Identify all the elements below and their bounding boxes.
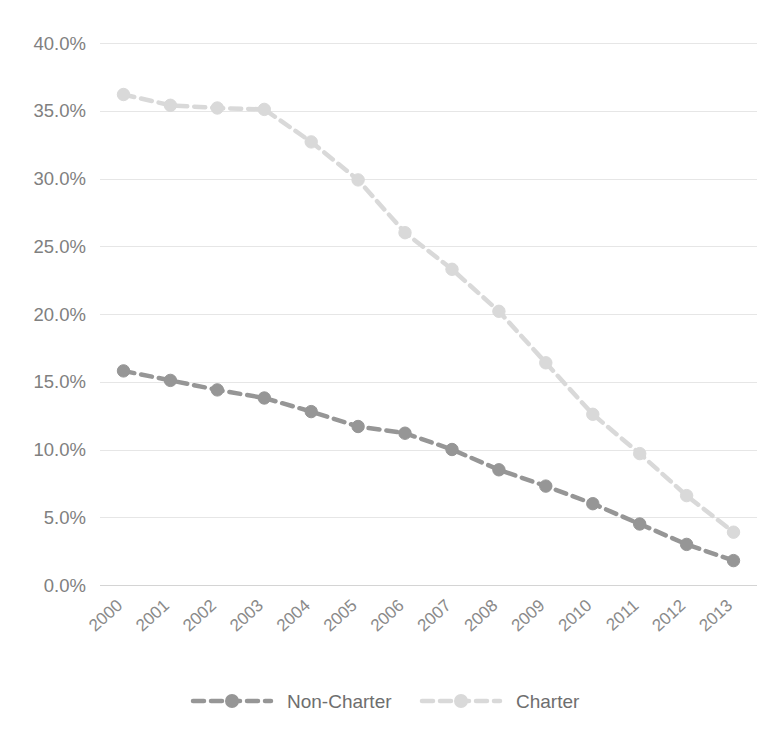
data-point-marker	[399, 227, 411, 239]
x-tick-label: 2001	[132, 596, 173, 635]
x-tick-label: 2000	[85, 596, 126, 635]
data-point-marker	[727, 526, 739, 538]
data-point-marker	[493, 464, 505, 476]
data-point-marker	[305, 136, 317, 148]
data-point-marker	[727, 554, 739, 566]
data-point-marker	[540, 357, 552, 369]
x-tick-label: 2003	[226, 596, 267, 635]
data-point-marker	[493, 305, 505, 317]
data-point-marker	[587, 408, 599, 420]
series-markers	[117, 88, 739, 567]
series-line	[124, 95, 734, 533]
data-point-marker	[164, 374, 176, 386]
data-point-marker	[117, 88, 129, 100]
legend-item[interactable]: Non-Charter	[193, 691, 392, 712]
x-tick-label: 2013	[695, 596, 736, 635]
series-line	[124, 371, 734, 561]
x-tick-label: 2004	[273, 596, 314, 635]
data-point-marker	[540, 480, 552, 492]
legend-marker-swatch	[225, 694, 239, 708]
data-point-marker	[680, 489, 692, 501]
y-tick-label: 10.0%	[34, 439, 86, 460]
legend-item[interactable]: Charter	[422, 691, 580, 712]
data-point-marker	[634, 447, 646, 459]
chart-container: 0.0%5.0%10.0%15.0%20.0%25.0%30.0%35.0%40…	[0, 0, 769, 736]
gridlines	[100, 44, 757, 586]
x-axis-tick-labels: 2000200120022003200420052006200720082009…	[85, 596, 736, 635]
x-tick-label: 2005	[320, 596, 361, 635]
legend-label: Non-Charter	[287, 691, 392, 712]
data-point-marker	[211, 384, 223, 396]
chart-legend: Non-CharterCharter	[193, 691, 580, 712]
x-tick-label: 2008	[461, 596, 502, 635]
x-tick-label: 2010	[555, 596, 596, 635]
data-point-marker	[352, 174, 364, 186]
x-tick-label: 2009	[508, 596, 549, 635]
chart-canvas: 0.0%5.0%10.0%15.0%20.0%25.0%30.0%35.0%40…	[0, 0, 769, 736]
y-tick-label: 35.0%	[34, 100, 86, 121]
y-tick-label: 20.0%	[34, 304, 86, 325]
data-point-marker	[352, 420, 364, 432]
x-tick-label: 2011	[602, 596, 642, 635]
x-tick-label: 2007	[414, 596, 455, 635]
y-tick-label: 40.0%	[34, 33, 86, 54]
data-point-marker	[258, 392, 270, 404]
data-point-marker	[211, 102, 223, 114]
data-point-marker	[305, 405, 317, 417]
x-tick-label: 2006	[367, 596, 408, 635]
y-axis-tick-labels: 0.0%5.0%10.0%15.0%20.0%25.0%30.0%35.0%40…	[34, 33, 86, 596]
y-tick-label: 15.0%	[34, 371, 86, 392]
data-point-marker	[680, 538, 692, 550]
series-lines	[124, 95, 734, 561]
y-tick-label: 30.0%	[34, 168, 86, 189]
data-point-marker	[446, 263, 458, 275]
y-tick-label: 0.0%	[44, 575, 86, 596]
data-point-marker	[258, 103, 270, 115]
data-point-marker	[117, 365, 129, 377]
data-point-marker	[634, 518, 646, 530]
data-point-marker	[399, 427, 411, 439]
x-tick-label: 2002	[179, 596, 220, 635]
data-point-marker	[164, 99, 176, 111]
y-tick-label: 25.0%	[34, 236, 86, 257]
data-point-marker	[587, 498, 599, 510]
data-point-marker	[446, 443, 458, 455]
x-tick-label: 2012	[648, 596, 689, 635]
legend-marker-swatch	[454, 694, 468, 708]
y-tick-label: 5.0%	[44, 507, 86, 528]
legend-label: Charter	[516, 691, 580, 712]
